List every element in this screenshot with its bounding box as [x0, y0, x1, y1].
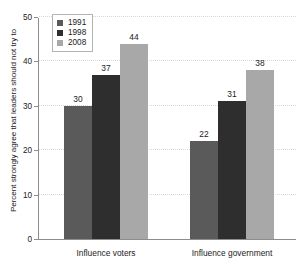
y-tick-label: 10 [23, 190, 32, 199]
x-axis-category-label: Influence government [192, 248, 273, 258]
y-tick-label: 40 [23, 57, 32, 66]
legend-swatch-icon [57, 40, 63, 46]
y-tick-label: 0 [27, 235, 32, 244]
y-tick-label: 50 [23, 13, 32, 22]
legend-item: 1998 [57, 28, 86, 38]
y-tick-mark [34, 106, 38, 107]
y-tick-label: 30 [23, 101, 32, 110]
bar: 44 [120, 44, 148, 239]
legend-label: 2008 [68, 38, 86, 48]
bar-value-label: 22 [199, 129, 208, 139]
y-tick-mark [34, 239, 38, 240]
y-tick-label: 20 [23, 146, 32, 155]
y-axis-line [38, 18, 39, 240]
bar: 37 [92, 75, 120, 239]
bar: 30 [64, 106, 92, 239]
legend-swatch-icon [57, 20, 63, 26]
y-tick-mark [34, 61, 38, 62]
legend-rows: 199119982008 [57, 18, 86, 48]
bar-value-label: 31 [227, 89, 236, 99]
bar-value-label: 38 [255, 58, 264, 68]
legend: 199119982008 [52, 14, 93, 52]
y-axis-title: Percent strongly agree that leaders shou… [9, 5, 18, 237]
y-tick-mark [34, 17, 38, 18]
x-axis-line [38, 239, 296, 240]
y-tick-mark [34, 150, 38, 151]
bar-value-label: 30 [73, 94, 82, 104]
bar-value-label: 44 [129, 32, 138, 42]
bar: 38 [246, 70, 274, 239]
y-tick-mark [34, 195, 38, 196]
legend-item: 2008 [57, 38, 86, 48]
legend-label: 1991 [68, 18, 86, 28]
legend-item: 1991 [57, 18, 86, 28]
legend-swatch-icon [57, 30, 63, 36]
bar: 31 [218, 101, 246, 239]
x-axis-category-label: Influence voters [76, 248, 135, 258]
bar: 22 [190, 141, 218, 239]
bar-value-label: 37 [101, 63, 110, 73]
bar-chart: Percent strongly agree that leaders shou… [0, 0, 303, 267]
legend-label: 1998 [68, 28, 86, 38]
